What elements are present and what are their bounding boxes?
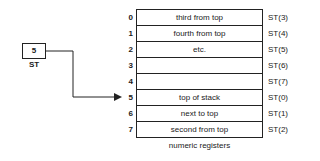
register-row: 6 next to top ST(1) — [137, 106, 262, 122]
register-st-name: ST(5) — [268, 42, 298, 57]
stack-top-register-box: 5 — [22, 43, 46, 59]
register-row: 7 second from top ST(2) — [137, 122, 262, 138]
register-description: top of stack — [179, 93, 220, 102]
diagram-caption: numeric registers — [136, 141, 263, 150]
register-index: 1 — [123, 26, 133, 41]
register-row: 2 etc. ST(5) — [137, 42, 262, 58]
register-description: fourth from top — [173, 29, 225, 38]
register-row: 1 fourth from top ST(4) — [137, 26, 262, 42]
register-description: third from top — [176, 13, 223, 22]
register-st-name: ST(1) — [268, 106, 298, 121]
register-index: 2 — [123, 42, 133, 57]
stack-top-label: ST — [22, 60, 46, 69]
register-description: etc. — [193, 45, 206, 54]
register-row: 4 ST(7) — [137, 74, 262, 90]
register-st-name: ST(2) — [268, 122, 298, 137]
register-st-name: ST(3) — [268, 10, 298, 25]
register-row: 0 third from top ST(3) — [137, 10, 262, 26]
register-index: 4 — [123, 74, 133, 89]
register-description: second from top — [171, 125, 228, 134]
register-row: 5 top of stack ST(0) — [137, 90, 262, 106]
register-row: 3 ST(6) — [137, 58, 262, 74]
register-description: next to top — [181, 109, 218, 118]
register-index: 0 — [123, 10, 133, 25]
register-st-name: ST(7) — [268, 74, 298, 89]
register-index: 3 — [123, 58, 133, 73]
numeric-register-stack: 0 third from top ST(3) 1 fourth from top… — [136, 9, 263, 138]
register-st-name: ST(4) — [268, 26, 298, 41]
register-index: 6 — [123, 106, 133, 121]
register-index: 7 — [123, 122, 133, 137]
register-st-name: ST(0) — [268, 90, 298, 105]
register-st-name: ST(6) — [268, 58, 298, 73]
register-index: 5 — [123, 90, 133, 105]
